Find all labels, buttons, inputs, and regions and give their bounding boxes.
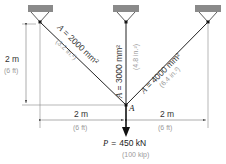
ceiling-hatch-icon — [113, 5, 139, 12]
support-middle — [113, 5, 139, 24]
support-left — [28, 5, 53, 24]
horizontal-right-imperial: (6 ft) — [158, 124, 172, 132]
horizontal-left-imperial: (6 ft) — [73, 124, 87, 132]
arrow-down-icon — [122, 127, 130, 137]
horizontal-left-metric: 2 m — [74, 109, 88, 119]
vertical-dimension-metric: 2 m — [5, 54, 19, 64]
ceiling-hatch-icon — [195, 5, 221, 12]
joint-label: A — [128, 103, 135, 113]
middle-bar-area-imperial: (4.8 in.²) — [132, 44, 140, 70]
middle-bar-area-label: A = 3000 mm² — [114, 45, 124, 99]
load-imperial: (100 kip) — [122, 151, 149, 159]
horizontal-right-metric: 2 m — [160, 109, 174, 119]
ceiling-hatch-icon — [28, 5, 53, 12]
support-right — [195, 5, 221, 24]
load-label: P=450 kN — [102, 138, 146, 148]
vertical-dimension-imperial: (6 ft) — [4, 67, 18, 75]
truss-diagram: A A = 2000 mm² (3.2 in.²) A = 3000 mm² (… — [0, 0, 226, 164]
